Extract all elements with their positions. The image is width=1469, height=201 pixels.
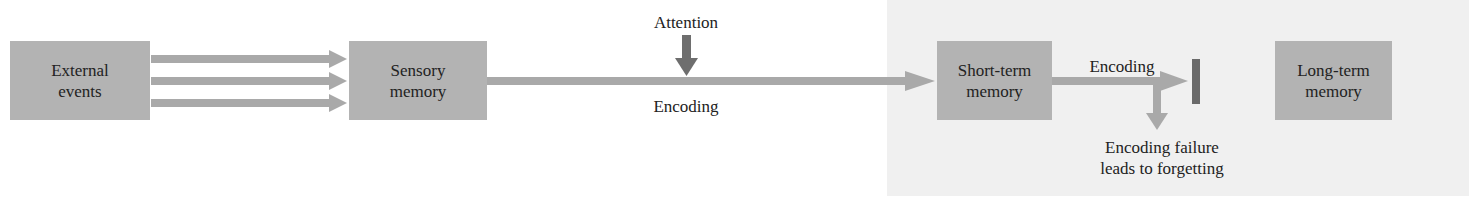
attention-arrow bbox=[675, 35, 698, 76]
encoding-label-main: Encoding bbox=[636, 96, 736, 117]
sensory-memory-box: Sensorymemory bbox=[349, 41, 487, 120]
external-events-box: Externalevents bbox=[10, 41, 150, 120]
encoding-label-stm: Encoding bbox=[1072, 56, 1172, 77]
input-arrows bbox=[151, 50, 347, 112]
long-term-memory-box: Long-termmemory bbox=[1275, 41, 1392, 120]
attention-label: Attention bbox=[636, 12, 736, 33]
failure-label: Encoding failure leads to forgetting bbox=[1082, 137, 1242, 179]
failure-arrow bbox=[1146, 85, 1168, 130]
block-bar bbox=[1192, 59, 1200, 104]
encoding-arrow-main bbox=[487, 71, 935, 91]
short-term-memory-box: Short-termmemory bbox=[937, 41, 1052, 120]
